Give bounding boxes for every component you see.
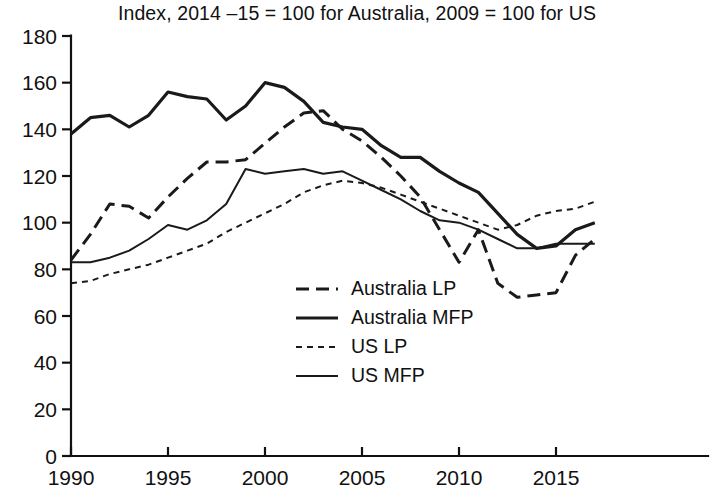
legend-label-australia-mfp: Australia MFP [351,306,473,328]
y-axis-tick-label: 60 [34,305,57,328]
x-axis-tick-label: 2010 [436,466,483,489]
series-lines [71,83,595,298]
series-line-australia-lp [71,111,595,298]
y-axis-tick-label: 140 [22,118,57,141]
legend-label-australia-lp: Australia LP [351,277,456,299]
chart-legend: Australia LPAustralia MFPUS LPUS MFP [296,277,473,386]
x-axis: 199019952000200520102015 [48,447,708,489]
y-axis-tick-label: 0 [45,445,57,468]
series-line-australia-mfp [71,83,595,249]
x-axis-tick-label: 2005 [339,466,386,489]
y-axis-tick-label: 180 [22,25,57,48]
x-axis-tick-label: 1995 [145,466,192,489]
legend-label-us-mfp: US MFP [351,364,425,386]
y-axis-tick-label: 20 [34,398,57,421]
y-axis: 020406080100120140160180 [22,25,71,468]
y-axis-tick-label: 100 [22,211,57,234]
x-axis-tick-label: 1990 [48,466,95,489]
y-axis-tick-label: 40 [34,351,57,374]
y-axis-tick-label: 80 [34,258,57,281]
y-axis-tick-label: 160 [22,71,57,94]
chart-container: Index, 2014 –15 = 100 for Australia, 200… [0,0,714,494]
x-axis-tick-label: 2000 [242,466,289,489]
legend-label-us-lp: US LP [351,335,407,357]
chart-plot-area: 020406080100120140160180 199019952000200… [0,0,714,494]
x-axis-tick-label: 2015 [533,466,580,489]
y-axis-tick-label: 120 [22,165,57,188]
